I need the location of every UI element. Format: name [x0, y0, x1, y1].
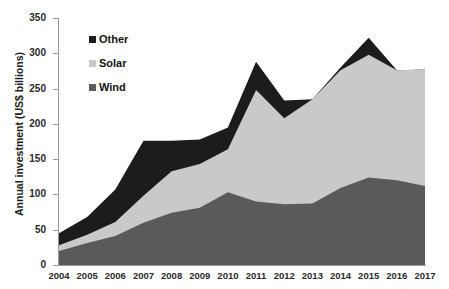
y-axis-tick-label: 250 — [0, 83, 46, 94]
y-axis-tick-label: 50 — [0, 224, 46, 235]
x-axis-line — [58, 265, 426, 266]
y-axis-tick-label: 300 — [0, 47, 46, 58]
y-axis-tick-label: 350 — [0, 12, 46, 23]
legend-swatch-wind-icon — [89, 84, 96, 91]
x-axis-tick-label: 2017 — [405, 270, 445, 281]
legend-item-wind: Wind — [89, 81, 128, 94]
legend-item-solar: Solar — [89, 57, 128, 70]
legend-swatch-solar-icon — [89, 60, 96, 67]
y-axis-tick-label: 200 — [0, 118, 46, 129]
legend-label-other: Other — [99, 33, 128, 46]
legend-swatch-other-icon — [89, 36, 96, 43]
legend-item-other: Other — [89, 33, 128, 46]
y-axis-tick-label: 150 — [0, 153, 46, 164]
legend-label-solar: Solar — [99, 57, 127, 70]
y-axis-tick-label: 0 — [0, 259, 46, 270]
y-axis-tick-label: 100 — [0, 188, 46, 199]
legend-label-wind: Wind — [99, 81, 126, 94]
chart-legend: Other Solar Wind — [89, 33, 128, 94]
chart-container: Annual investment (US$ billions) 0501001… — [0, 0, 449, 289]
